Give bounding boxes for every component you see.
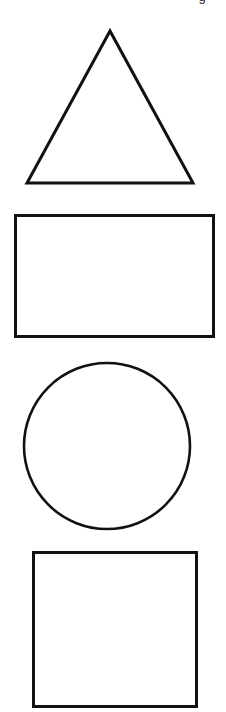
clipped-header-text: g: [0, 0, 226, 5]
circle-outline: [24, 363, 190, 529]
shapes-canvas: g: [0, 0, 226, 712]
square-shape: [27, 546, 202, 712]
rectangle-outline: [16, 216, 214, 337]
triangle-outline: [27, 31, 193, 183]
circle-shape: [18, 356, 196, 536]
square-outline: [34, 553, 197, 707]
triangle-shape: [21, 25, 199, 190]
rectangle-shape: [8, 208, 218, 341]
